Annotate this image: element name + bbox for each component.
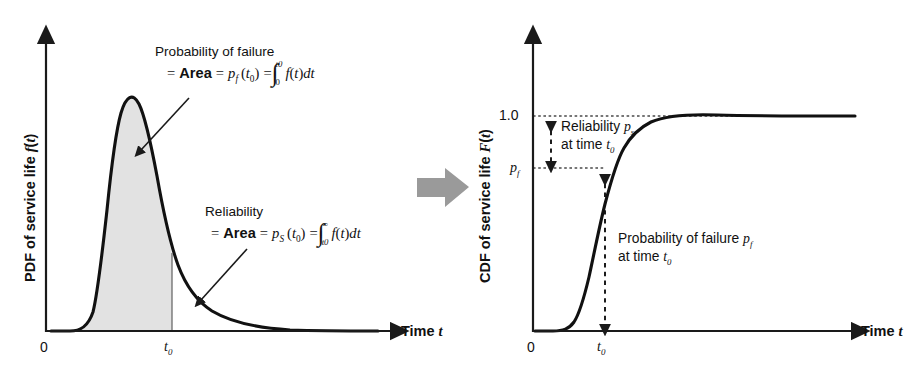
pdf-origin-label: 0 xyxy=(40,339,48,356)
failure-integral-upper: t0 xyxy=(276,60,283,69)
cdf-failure-line1: Probability of failure pf xyxy=(618,231,752,249)
reliability-leader-line xyxy=(201,249,247,300)
cdf-reliability-line1: Reliability ps xyxy=(561,119,634,137)
failure-annotation: Probability of failure = Area = pf (t0) … xyxy=(155,44,315,85)
reliability-integrand-dt: dt xyxy=(349,225,360,241)
pdf-x-axis-symbol: t xyxy=(439,323,443,339)
reliability-annotation-title: Reliability xyxy=(205,204,361,220)
cdf-origin-label: 0 xyxy=(527,339,535,356)
pdf-t0-subscript: 0 xyxy=(168,347,172,357)
failure-eq-area-word: Area xyxy=(179,65,211,81)
pdf-x-axis-title: Time t xyxy=(401,323,443,340)
failure-annotation-title: Probability of failure xyxy=(155,44,315,60)
cdf-failure-line2: at time t0 xyxy=(618,249,752,267)
failure-integral-lower: 0 xyxy=(276,78,283,87)
pdf-t0-tick-label: t0 xyxy=(164,338,172,357)
cdf-failure-line1-symbol: p xyxy=(743,231,750,246)
cdf-tick-pf-symbol: p xyxy=(510,160,517,175)
cdf-reliability-line2-text: at time xyxy=(561,137,606,152)
cdf-y-axis-title-text: CDF of service life xyxy=(477,152,493,283)
cdf-reliability-line1-text: Reliability xyxy=(561,119,624,134)
failure-integral-limits: t00 xyxy=(276,65,283,83)
reliability-eq-paren-close: ) xyxy=(301,225,306,241)
cdf-t0-tick-label: t0 xyxy=(597,338,605,357)
cdf-y-axis-title: CDF of service life F(t) xyxy=(477,129,494,283)
cdf-failure-line1-sub: f xyxy=(750,239,752,249)
reliability-annotation: Reliability = Area = pS (t0) =∫∞t0f(t)dt xyxy=(205,204,361,245)
cdf-plot-svg xyxy=(455,0,911,370)
failure-leader-line xyxy=(141,98,189,150)
pdf-y-axis-title: PDF of service life f(t) xyxy=(22,134,39,282)
failure-eq-paren-open: ( xyxy=(238,65,246,81)
cdf-failure-line2-sub: 0 xyxy=(667,257,671,267)
reliability-eq-prefix: = xyxy=(211,225,219,241)
cdf-y-axis-symbol-arg: t xyxy=(477,134,493,138)
figure-root: PDF of service life f(t) Time t 0 t0 Pro… xyxy=(0,0,911,370)
failure-eq-paren-close: ) xyxy=(255,65,260,81)
failure-eq-equals: = xyxy=(216,65,224,81)
cdf-reliability-annotation: Reliability ps at time t0 xyxy=(561,119,634,155)
reliability-eq-paren-open: ( xyxy=(284,225,292,241)
failure-annotation-equation: = Area = pf (t0) =∫t00f(t)dt xyxy=(167,65,315,85)
cdf-x-axis-symbol: t xyxy=(899,323,903,339)
cdf-failure-line1-text: Probability of failure xyxy=(618,231,743,246)
cdf-failure-line2-text: at time xyxy=(618,249,663,264)
cdf-failure-annotation: Probability of failure pf at time t0 xyxy=(618,231,752,267)
cdf-reliability-line1-sub: s xyxy=(631,127,634,137)
pdf-y-axis-title-text: PDF of service life xyxy=(22,152,38,282)
reliability-annotation-equation: = Area = pS (t0) =∫∞t0f(t)dt xyxy=(211,225,361,245)
pdf-y-axis-symbol: f xyxy=(22,147,38,152)
cdf-reliability-line1-symbol: p xyxy=(624,119,631,134)
reliability-integral-limits: ∞t0 xyxy=(322,225,329,243)
cdf-reliability-line2: at time t0 xyxy=(561,137,634,155)
reliability-eq-equals: = xyxy=(260,225,268,241)
cdf-tick-pf-subscript: f xyxy=(517,168,520,178)
reliability-integral-lower: t0 xyxy=(322,238,329,247)
cdf-panel: CDF of service life F(t) Time t 1.0 pf 0… xyxy=(455,0,911,370)
failure-eq-prefix: = xyxy=(167,65,175,81)
reliability-eq-equals2: = xyxy=(310,225,318,241)
pdf-x-axis-title-text: Time xyxy=(401,323,439,339)
cdf-t0-subscript: 0 xyxy=(601,347,605,357)
failure-integrand-dt: dt xyxy=(303,65,314,81)
cdf-tick-pf-label: pf xyxy=(510,159,520,178)
cdf-tick-1-label: 1.0 xyxy=(499,107,518,124)
pdf-panel: PDF of service life f(t) Time t 0 t0 Pro… xyxy=(0,0,456,370)
cdf-reliability-line2-sub: 0 xyxy=(610,145,614,155)
cdf-x-axis-title-text: Time xyxy=(861,323,899,339)
reliability-integral-upper: ∞ xyxy=(322,220,329,229)
failure-eq-equals2: = xyxy=(263,65,271,81)
reliability-eq-area-word: Area xyxy=(223,225,255,241)
cdf-x-axis-title: Time t xyxy=(861,323,903,340)
cdf-y-axis-symbol: F xyxy=(477,143,493,153)
pdf-y-axis-symbol-arg: t xyxy=(22,139,38,143)
